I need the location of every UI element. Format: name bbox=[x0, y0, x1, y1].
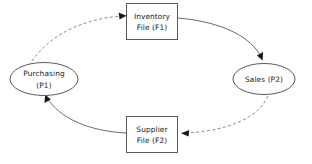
node-inventory-file-label-line1: Inventory bbox=[134, 12, 171, 21]
node-purchasing[interactable]: Purchasing (P1) bbox=[10, 63, 78, 96]
node-purchasing-label-line1: Purchasing bbox=[23, 69, 65, 78]
node-supplier-file[interactable]: Supplier File (F2) bbox=[127, 117, 178, 153]
node-inventory-file-label-line2: File (F1) bbox=[137, 23, 167, 32]
flow-purchasing-to-inventory-arrowhead bbox=[119, 13, 127, 20]
flow-inventory-to-sales-arrowhead bbox=[257, 52, 263, 61]
flow-inventory-to-sales-line bbox=[178, 18, 261, 57]
flow-supplier-to-purchasing bbox=[44, 95, 126, 133]
flow-purchasing-to-inventory bbox=[32, 13, 127, 61]
node-supplier-file-label-line1: Supplier bbox=[136, 125, 168, 134]
flow-sales-to-supplier-arrowhead bbox=[181, 130, 189, 137]
flow-sales-to-supplier-line bbox=[185, 96, 268, 133]
node-purchasing-label-line2: (P1) bbox=[36, 81, 51, 90]
node-sales-label-line1: Sales (P2) bbox=[245, 75, 283, 84]
flow-supplier-to-purchasing-line bbox=[47, 98, 126, 133]
node-supplier-file-box[interactable] bbox=[127, 117, 178, 153]
flow-purchasing-to-inventory-line bbox=[32, 16, 123, 61]
flow-sales-to-supplier bbox=[181, 96, 268, 137]
node-purchasing-ellipse[interactable] bbox=[10, 63, 78, 96]
node-sales[interactable]: Sales (P2) bbox=[233, 64, 295, 95]
node-supplier-file-label-line2: File (F2) bbox=[137, 136, 167, 145]
data-flow-diagram: Inventory File (F1) Sales (P2) Supplier … bbox=[0, 0, 312, 164]
node-inventory-file[interactable]: Inventory File (F1) bbox=[127, 4, 178, 40]
node-inventory-file-box[interactable] bbox=[127, 4, 178, 40]
flow-inventory-to-sales bbox=[178, 18, 263, 61]
